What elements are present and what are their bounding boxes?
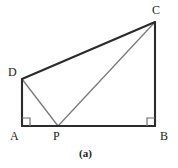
- vertex-label-D: D: [8, 66, 17, 78]
- vertex-label-B: B: [160, 130, 168, 142]
- figure-canvas: [0, 0, 178, 168]
- vertex-label-P: P: [53, 130, 60, 142]
- geometry-figure: C D A P B (a): [0, 0, 178, 168]
- figure-caption: (a): [79, 148, 92, 159]
- vertex-label-C: C: [152, 4, 160, 16]
- vertex-label-A: A: [10, 130, 19, 142]
- vertex-point-P: [57, 125, 59, 127]
